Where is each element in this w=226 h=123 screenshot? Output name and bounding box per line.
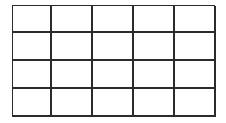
grid-cell-r1-c5 xyxy=(175,6,216,33)
grid-cell-r2-c5 xyxy=(175,33,216,61)
grid-cell-r4-c1 xyxy=(13,89,52,117)
grid-cell-r4-c2 xyxy=(52,89,93,117)
grid-cell-r2-c3 xyxy=(93,33,134,61)
grid-cell-r3-c5 xyxy=(175,61,216,89)
grid-cell-r4-c4 xyxy=(134,89,175,117)
grid-cell-r1-c4 xyxy=(134,6,175,33)
empty-table-grid xyxy=(12,5,215,117)
grid-cell-r3-c4 xyxy=(134,61,175,89)
grid-cell-r1-c1 xyxy=(13,6,52,33)
grid-cell-r4-c3 xyxy=(93,89,134,117)
grid-cell-r1-c3 xyxy=(93,6,134,33)
grid-cell-r3-c1 xyxy=(13,61,52,89)
grid-cell-r2-c4 xyxy=(134,33,175,61)
grid-cell-r2-c1 xyxy=(13,33,52,61)
grid-cell-r1-c2 xyxy=(52,6,93,33)
grid-cell-r3-c2 xyxy=(52,61,93,89)
grid-cell-r4-c5 xyxy=(175,89,216,117)
grid-cell-r3-c3 xyxy=(93,61,134,89)
grid-cell-r2-c2 xyxy=(52,33,93,61)
